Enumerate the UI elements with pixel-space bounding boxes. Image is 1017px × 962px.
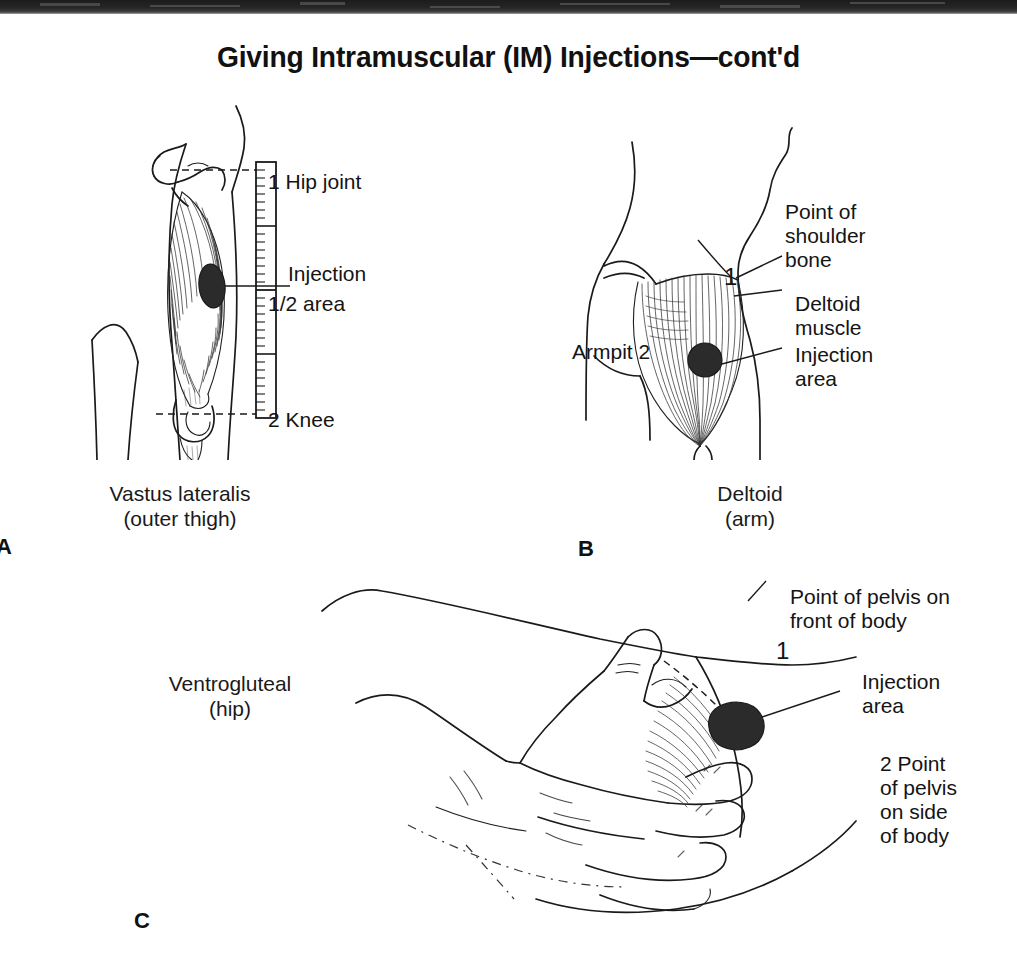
label-landmark-one-b: 1 [724, 263, 737, 290]
label-half-mark: 1/2 area [268, 292, 345, 316]
label-point-of-shoulder-bone: Point of shoulder bone [785, 200, 866, 272]
textbook-page: Giving Intramuscular (IM) Injections—con… [0, 0, 1017, 962]
label-landmark-one-c: 1 [776, 637, 789, 664]
label-armpit: Armpit 2 [572, 340, 650, 364]
cropped-figure-caption [0, 946, 1017, 962]
panel-c-illustration [300, 565, 860, 915]
label-knee: 2 Knee [268, 408, 335, 432]
caption-panel-b: Deltoid (arm) [600, 482, 900, 532]
measuring-scale [256, 162, 276, 418]
panel-letter-b: B [578, 536, 594, 562]
label-point-of-pelvis-front: Point of pelvis on front of body [790, 585, 950, 633]
page-title: Giving Intramuscular (IM) Injections—con… [31, 40, 987, 74]
label-point-of-pelvis-side: 2 Point of pelvis on side of body [880, 752, 957, 848]
caption-panel-a: Vastus lateralis (outer thigh) [40, 482, 320, 532]
scan-artifact-band [0, 0, 1017, 14]
label-injection-area-a: Injection [288, 262, 366, 286]
panel-letter-c: C [134, 908, 150, 934]
label-deltoid-muscle: Deltoid muscle [795, 292, 862, 340]
label-injection-area-c: Injection area [862, 670, 940, 718]
label-hip-joint: 1 Hip joint [268, 170, 361, 194]
panel-letter-a: A [0, 534, 12, 560]
caption-panel-c: Ventrogluteal (hip) [100, 672, 360, 722]
label-injection-area-b: Injection area [795, 343, 873, 391]
